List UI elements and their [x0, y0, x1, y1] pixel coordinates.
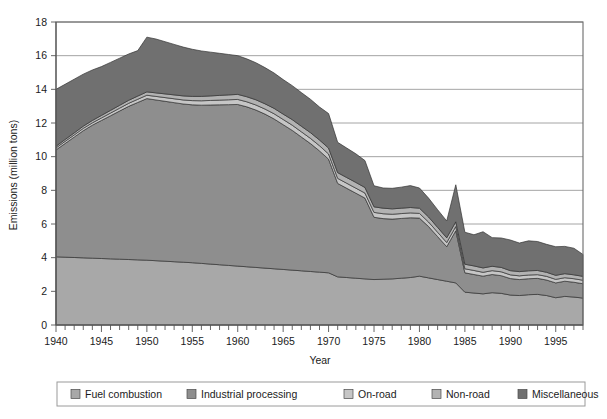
x-tick-label: 1970: [317, 335, 341, 347]
x-tick-label: 1950: [135, 335, 159, 347]
x-tick-label: 1980: [408, 335, 432, 347]
chart-legend: Fuel combustionIndustrial processingOn-r…: [57, 382, 599, 406]
x-tick-label: 1960: [226, 335, 250, 347]
y-tick-label: 2: [41, 285, 47, 297]
legend-label: Miscellaneous: [532, 388, 599, 400]
chart-canvas: 024681012141618 194019451950195519601965…: [0, 0, 607, 419]
y-tick-label: 14: [35, 83, 47, 95]
y-tick-label: 6: [41, 218, 47, 230]
y-tick-label: 8: [41, 184, 47, 196]
x-tick-label: 1965: [271, 335, 295, 347]
y-tick-label: 0: [41, 319, 47, 331]
emissions-stacked-area-figure: 024681012141618 194019451950195519601965…: [0, 0, 607, 419]
x-tick-label: 1940: [44, 335, 68, 347]
legend-swatch: [71, 390, 80, 399]
y-tick-label: 16: [35, 49, 47, 61]
legend-swatch: [432, 390, 441, 399]
legend-label: On-road: [358, 388, 397, 400]
x-tick-label: 1945: [90, 335, 114, 347]
y-tick-label: 18: [35, 16, 47, 28]
legend-swatch: [187, 390, 196, 399]
legend-swatch: [518, 390, 527, 399]
x-tick-label: 1985: [453, 335, 477, 347]
x-axis-title: Year: [309, 354, 331, 366]
legend-label: Non-road: [446, 388, 490, 400]
legend-label: Industrial processing: [201, 388, 297, 400]
y-axis-title: Emissions (million tons): [7, 120, 19, 230]
x-tick-label: 1975: [362, 335, 386, 347]
x-tick-label: 1990: [499, 335, 523, 347]
y-tick-label: 10: [35, 150, 47, 162]
y-tick-label: 4: [41, 251, 47, 263]
x-tick-label: 1955: [181, 335, 205, 347]
x-tick-label: 1995: [544, 335, 568, 347]
y-tick-label: 12: [35, 117, 47, 129]
legend-swatch: [344, 390, 353, 399]
legend-label: Fuel combustion: [85, 388, 162, 400]
